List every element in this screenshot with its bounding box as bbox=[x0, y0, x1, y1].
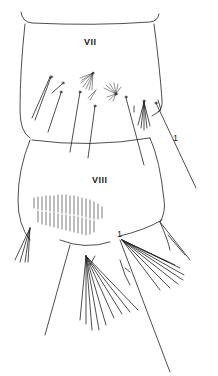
setae-vii bbox=[32, 76, 196, 188]
setae-viii bbox=[15, 222, 190, 372]
abdomen-drawing bbox=[0, 0, 218, 376]
comb-spines-viii bbox=[34, 195, 102, 235]
segment-label-vii: VII bbox=[84, 37, 97, 47]
segment-label-viii: VIII bbox=[92, 175, 108, 185]
segment-viii-outline bbox=[18, 138, 170, 250]
seta-label-1-viii: 1 bbox=[117, 229, 122, 239]
fan-setae-vii bbox=[80, 72, 121, 101]
seta-label-1-vii: 1 bbox=[173, 133, 178, 143]
